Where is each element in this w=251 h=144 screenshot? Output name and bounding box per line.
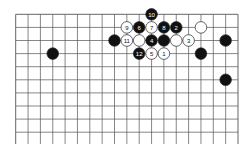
stone-circle xyxy=(195,48,207,60)
go-board[interactable]: 109678211431251 xyxy=(0,0,251,144)
move-number-label: 11 xyxy=(124,38,131,44)
board-grid xyxy=(16,14,238,144)
stone-circle xyxy=(195,22,207,34)
white-stone xyxy=(133,35,145,47)
stone-circle xyxy=(47,48,59,60)
black-stone xyxy=(47,48,59,60)
white-stone xyxy=(170,35,182,47)
stone-circle xyxy=(158,35,170,47)
black-stone: 2 xyxy=(170,22,182,34)
white-stone: 9 xyxy=(121,22,133,34)
black-stone xyxy=(109,35,121,47)
move-number-label: 12 xyxy=(136,51,143,57)
stone-circle xyxy=(220,74,232,86)
white-stone: 5 xyxy=(146,48,158,60)
black-stone xyxy=(220,74,232,86)
stone-circle xyxy=(133,35,145,47)
black-stone: 4 xyxy=(146,35,158,47)
black-stone xyxy=(158,35,170,47)
white-stone: 7 xyxy=(146,22,158,34)
black-stone: 6 xyxy=(133,22,145,34)
white-stone: 3 xyxy=(183,35,195,47)
white-stone xyxy=(195,22,207,34)
stone-circle xyxy=(220,35,232,47)
black-stone: 8 xyxy=(158,22,170,34)
white-stone: 1 xyxy=(158,48,170,60)
black-stone: 12 xyxy=(133,48,145,60)
stone-circle xyxy=(109,35,121,47)
black-stone xyxy=(220,35,232,47)
stone-circle xyxy=(170,35,182,47)
white-stone: 11 xyxy=(121,35,133,47)
black-stone xyxy=(195,48,207,60)
black-stone: 10 xyxy=(146,9,158,21)
move-number-label: 10 xyxy=(148,12,155,18)
